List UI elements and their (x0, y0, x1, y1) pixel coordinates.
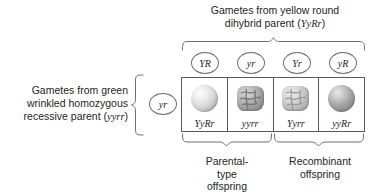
recombinant-label-line1: Recombinant (289, 155, 351, 167)
offspring-cell-2: yyrr (228, 78, 274, 131)
round-seed-icon (191, 85, 218, 112)
seed-graphic-wrinkled-yellow (274, 78, 319, 118)
parental-label-line2: type (217, 168, 237, 180)
recombinant-offspring-label: Recombinant offspring (274, 155, 366, 180)
seed-graphic-round-green (319, 78, 364, 118)
offspring-cell-4: yyRr (319, 78, 364, 131)
gamete-label-yr-top: yr (247, 58, 255, 69)
gamete-label-yr-side: yr (159, 99, 167, 110)
offspring-table: YyRr yyrr (181, 77, 365, 132)
offspring-cell-3: Yyrr (274, 78, 320, 131)
recombinant-label-line2: offspring (300, 168, 340, 180)
parental-brace (181, 133, 274, 147)
left-parent-label-line1: Gametes from green (32, 84, 128, 96)
wrinkled-seed-icon (282, 86, 309, 111)
offspring-genotype-3: Yyrr (287, 118, 305, 130)
left-parent-label-line3: recessive parent (yyrr) (24, 110, 128, 122)
seed-graphic-round-yellow (182, 78, 227, 118)
gamete-circle-yr-top: yr (237, 52, 265, 74)
offspring-genotype-1: YyRr (194, 118, 214, 130)
gamete-label-Yr: Yr (292, 58, 301, 69)
seed-graphic-wrinkled-green (228, 78, 273, 118)
top-parent-label-line2: dihybrid parent (YyRr) (225, 17, 325, 29)
gamete-circle-YR: YR (191, 52, 219, 74)
top-parent-label-line1: Gametes from yellow round (211, 4, 339, 16)
left-brace (131, 74, 145, 136)
top-parent-label: Gametes from yellow round dihybrid paren… (184, 4, 366, 30)
left-parent-label-line2: wrinkled homozygous (27, 97, 128, 109)
offspring-genotype-4: yyRr (332, 118, 351, 130)
parental-label-line3: offspring (207, 180, 247, 192)
offspring-genotype-2: yyrr (242, 118, 259, 130)
round-seed-icon (328, 85, 355, 112)
gamete-label-YR: YR (199, 58, 211, 69)
parental-label-line1: Parental- (206, 155, 249, 167)
left-parent-genotype: yyrr (107, 111, 125, 122)
gamete-label-yR: yR (338, 58, 349, 69)
top-brace (181, 37, 366, 51)
top-parent-genotype: YyRr (301, 18, 322, 29)
parental-offspring-label: Parental- type offspring (182, 155, 272, 193)
left-parent-label: Gametes from green wrinkled homozygous r… (6, 84, 128, 123)
dihybrid-testcross-diagram: Gametes from yellow round dihybrid paren… (0, 0, 369, 195)
gamete-circle-Yr: Yr (283, 52, 311, 74)
gamete-circle-yr-side: yr (149, 93, 177, 115)
wrinkled-seed-icon (237, 86, 264, 111)
offspring-cell-1: YyRr (182, 78, 228, 131)
gamete-circle-yR: yR (329, 52, 357, 74)
recombinant-brace (273, 133, 366, 147)
